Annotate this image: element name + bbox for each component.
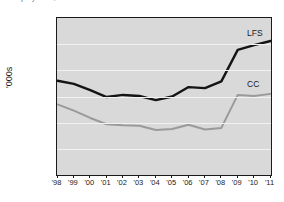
x-tick-label: '98 — [52, 178, 62, 187]
series-label-lfs: LFS — [247, 28, 263, 38]
x-tick-label: '11 — [265, 178, 274, 187]
x-tick-label: '07 — [199, 178, 209, 187]
clipped-caption: employment, 1998-2011 — [0, 0, 284, 7]
x-tick-label: '01 — [101, 178, 111, 187]
gridline — [57, 44, 271, 45]
x-tick-label: '05 — [166, 178, 176, 187]
gridline — [57, 70, 271, 71]
x-tick-label: '99 — [68, 178, 78, 187]
x-tick-label: '10 — [248, 178, 258, 187]
x-tick-label: '04 — [150, 178, 160, 187]
x-tick-label: '06 — [183, 178, 193, 187]
y-axis-label: '000s — [4, 67, 14, 88]
plot-area — [56, 17, 272, 176]
series-label-cc: CC — [247, 79, 259, 89]
gridline — [57, 123, 271, 124]
x-tick-label: '09 — [232, 178, 242, 187]
x-tick-label: '02 — [117, 178, 127, 187]
x-tick-label: '00 — [84, 178, 94, 187]
clipped-caption-text: employment, 1998-2011 — [10, 0, 96, 2]
gridline — [57, 97, 271, 98]
gridline — [57, 149, 271, 150]
x-tick-label: '08 — [215, 178, 225, 187]
x-tick-label: '03 — [134, 178, 144, 187]
chart-screenshot: employment, 1998-2011 '000s 050010001500… — [0, 0, 284, 202]
